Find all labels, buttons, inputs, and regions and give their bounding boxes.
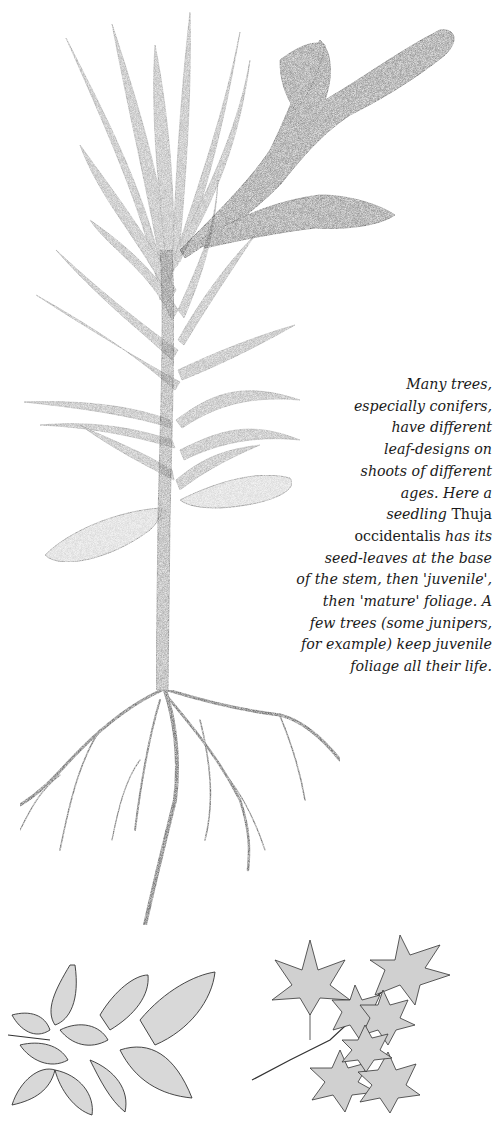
caption-text: Many trees, bbox=[406, 376, 492, 392]
caption-text: foliage all their life. bbox=[350, 658, 492, 674]
caption-line: foliage all their life. bbox=[262, 656, 492, 678]
caption-text: seed-leaves at the base bbox=[325, 550, 492, 566]
species-name-epithet: occidentalis bbox=[354, 528, 445, 544]
toothed-leaf-sprig-illustration bbox=[8, 965, 215, 1115]
caption-line: seed-leaves at the base bbox=[262, 548, 492, 570]
caption-line: ages. Here a bbox=[262, 483, 492, 505]
caption-line: then 'mature' foliage. A bbox=[262, 591, 492, 613]
caption-line: for example) keep juvenile bbox=[262, 634, 492, 656]
caption-line: leaf-designs on bbox=[262, 439, 492, 461]
caption-line: especially conifers, bbox=[262, 396, 492, 418]
species-name-genus: Thuja bbox=[451, 506, 492, 522]
caption-text: ages. Here a bbox=[401, 485, 492, 501]
caption-text: few trees (some junipers, bbox=[310, 615, 492, 631]
caption-text: for example) keep juvenile bbox=[301, 636, 492, 652]
caption-line: shoots of different bbox=[262, 461, 492, 483]
caption-text: especially conifers, bbox=[354, 398, 492, 414]
caption-text: leaf-designs on bbox=[384, 441, 492, 457]
maple-leaf-sprig-illustration bbox=[252, 935, 450, 1113]
caption-text: of the stem, then 'juvenile', bbox=[296, 571, 492, 587]
caption-line: occidentalis has its bbox=[262, 526, 492, 548]
caption-line: have different bbox=[262, 417, 492, 439]
root-system bbox=[20, 690, 340, 925]
caption-text: shoots of different bbox=[361, 463, 492, 479]
caption-text: seedling bbox=[386, 506, 451, 522]
mature-scale-foliage bbox=[180, 30, 454, 258]
caption-line: Many trees, bbox=[262, 374, 492, 396]
caption-line: seedling Thuja bbox=[262, 504, 492, 526]
figure-caption: Many trees, especially conifers, have di… bbox=[262, 374, 492, 678]
caption-line: few trees (some junipers, bbox=[262, 613, 492, 635]
caption-text: have different bbox=[391, 419, 492, 435]
caption-text: has its bbox=[445, 528, 492, 544]
caption-line: of the stem, then 'juvenile', bbox=[262, 569, 492, 591]
caption-text: then 'mature' foliage. A bbox=[323, 593, 492, 609]
